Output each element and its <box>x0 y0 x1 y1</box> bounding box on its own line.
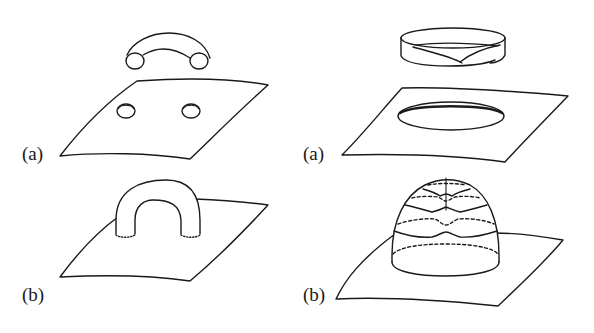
handle-tube <box>126 33 210 69</box>
plane-hole <box>398 102 504 130</box>
label-right-a: (a) <box>303 143 324 165</box>
plane-holes <box>117 104 200 118</box>
handle-attached <box>116 180 200 237</box>
panel-right-a: (a) <box>303 28 568 165</box>
plane-surface <box>342 88 568 162</box>
label-left-b: (b) <box>22 284 44 306</box>
mobius-band <box>401 28 505 66</box>
panel-right-b: (b) <box>303 178 563 306</box>
label-left-a: (a) <box>22 143 43 165</box>
label-right-b: (b) <box>303 284 325 306</box>
plane-surface <box>60 79 268 159</box>
figure-canvas: (a) (a) (b) <box>0 0 594 333</box>
panel-left-b: (b) <box>22 180 268 306</box>
panel-left-a: (a) <box>22 33 268 165</box>
cross-cap-dome <box>392 178 499 276</box>
